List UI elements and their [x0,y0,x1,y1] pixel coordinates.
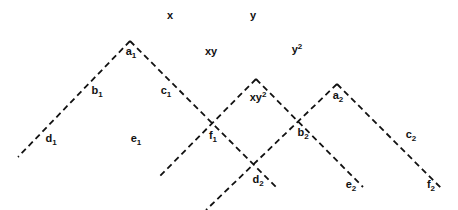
dashed-lines-layer [0,0,458,210]
label-c1: c1 [161,85,172,99]
label-y2: y2 [292,43,303,55]
label-base: x [167,9,173,21]
label-subscript: 2 [259,179,263,188]
label-base: xy [205,45,217,57]
label-x: x [167,10,173,21]
label-superscript: 2 [262,90,266,99]
dashed-line-tri1-right [130,41,277,188]
label-base: d [45,132,52,144]
label-xy2: xy2 [250,91,267,103]
label-subscript: 2 [352,184,356,193]
label-subscript: 1 [98,90,102,99]
label-superscript: 2 [298,42,302,51]
label-xy: xy [205,46,217,57]
label-b1: b1 [91,85,102,99]
label-a2: a2 [333,90,344,104]
label-e1: e1 [131,133,142,147]
label-base: d [252,173,259,185]
label-subscript: 2 [304,132,308,141]
label-e2: e2 [346,179,357,193]
dashed-line-tri3-left [206,84,337,210]
label-d2: d2 [252,174,263,188]
label-subscript: 1 [52,138,56,147]
label-y: y [250,10,256,21]
label-subscript: 2 [431,184,435,193]
label-subscript: 1 [132,51,136,60]
label-subscript: 2 [412,134,416,143]
label-base: y [250,9,256,21]
dashed-line-tri3-right [337,84,442,189]
label-b2: b2 [297,127,308,141]
label-subscript: 1 [213,135,217,144]
label-a1: a1 [126,46,137,60]
label-subscript: 1 [137,138,141,147]
label-f2: f2 [427,179,435,193]
label-base: b [297,126,304,138]
label-d1: d1 [45,133,56,147]
label-subscript: 2 [339,95,343,104]
label-f1: f1 [209,130,217,144]
lattice-diagram: xyxyy2a1b1c1d1e1f1xy2a2b2c2d2e2f2 [0,0,458,210]
label-base: xy [250,91,262,103]
label-subscript: 1 [167,90,171,99]
label-c2: c2 [406,129,417,143]
dashed-line-tri2-left [160,79,256,176]
label-base: b [91,84,98,96]
dashed-line-tri1-left [18,41,130,157]
